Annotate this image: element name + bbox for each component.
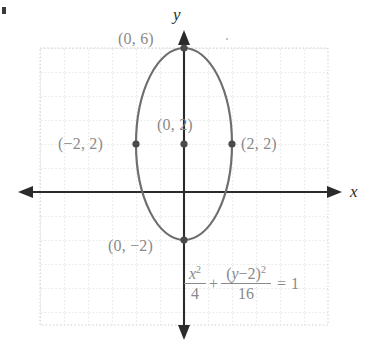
label-bottom-vertex: (0, −2) — [108, 238, 153, 254]
label-center: (0, 2) — [157, 117, 193, 133]
point-0-6 — [180, 44, 187, 51]
label-right-covertex: (2, 2) — [241, 136, 277, 152]
point-0-2 — [180, 140, 187, 147]
equation-term-one: x2 4 — [184, 266, 206, 302]
point-2-2 — [228, 140, 235, 147]
scan-speck — [226, 38, 228, 40]
equation-right-side: 1 — [291, 276, 299, 292]
label-left-covertex: (−2, 2) — [58, 136, 103, 152]
y-axis-label: y — [173, 6, 181, 23]
equation-term-two-denominator: 16 — [233, 284, 259, 302]
equation-term-two-numerator: (y−2)2 — [221, 266, 271, 283]
equation-plus-operator: + — [209, 276, 218, 292]
equation-x-exponent: 2 — [196, 264, 201, 275]
equation-y-var: y — [231, 265, 238, 282]
label-top-vertex: (0, 6) — [118, 31, 154, 47]
equation-equals-sign: = — [277, 276, 286, 292]
ellipse-equation: x2 4 + (y−2)2 16 = 1 — [183, 266, 299, 302]
equation-minus-sign: − — [239, 265, 248, 282]
equation-y-exponent: 2 — [261, 264, 266, 275]
equation-y-shift-const: 2 — [248, 265, 256, 282]
x-axis-label: x — [350, 183, 358, 200]
equation-term-one-denominator: 4 — [186, 284, 204, 302]
equation-term-one-numerator: x2 — [184, 266, 206, 283]
point-m2-2 — [132, 140, 139, 147]
ellipse-graph-figure: y x (0, 6) (−2, 2) (0, 2) (2, 2) (0, −2)… — [0, 0, 372, 344]
point-0-m2 — [180, 236, 187, 243]
equation-term-two: (y−2)2 16 — [221, 266, 271, 302]
